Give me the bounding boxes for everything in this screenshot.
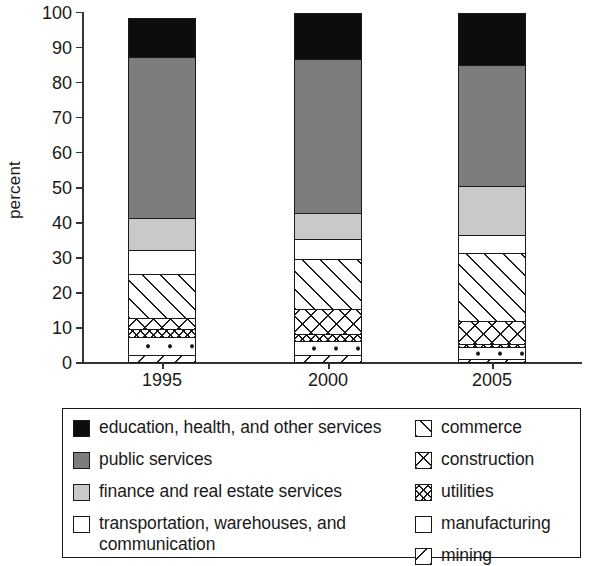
y-tick-label-60: 60 bbox=[32, 144, 72, 162]
bar-segment-commerce-2000 bbox=[295, 259, 361, 310]
bar-segment-construction-2005 bbox=[459, 321, 525, 344]
stacked-bar-chart: percent 0102030405060708090100 199520002… bbox=[0, 0, 595, 400]
bar-1995 bbox=[128, 18, 196, 363]
legend-label-manufacturing: manufacturing bbox=[441, 513, 551, 534]
y-tick-label-50: 50 bbox=[32, 179, 72, 197]
legend-item-education[interactable]: education, health, and other services bbox=[73, 417, 418, 444]
y-tick-label-90: 90 bbox=[32, 39, 72, 57]
bar-segment-education-2000 bbox=[295, 13, 361, 59]
legend-item-finance[interactable]: finance and real estate services bbox=[73, 481, 418, 508]
legend-label-transport-line2: communication bbox=[99, 534, 346, 555]
bar-segment-utilities-1995 bbox=[129, 329, 195, 338]
y-tick-label-30: 30 bbox=[32, 249, 72, 267]
y-tick-label-40: 40 bbox=[32, 214, 72, 232]
y-tick-label-100: 100 bbox=[32, 4, 72, 22]
bar-segment-manufacturing-2000 bbox=[295, 341, 361, 355]
bar-segment-public-services-1995 bbox=[129, 57, 195, 218]
legend-item-utilities[interactable]: utilities bbox=[415, 481, 575, 508]
y-axis-line bbox=[82, 12, 84, 363]
legend-label-utilities: utilities bbox=[441, 481, 494, 502]
y-tick-label-20: 20 bbox=[32, 284, 72, 302]
bar-segment-public-services-2005 bbox=[459, 65, 525, 186]
bar-segment-education-1995 bbox=[129, 18, 195, 57]
legend-swatch-transport bbox=[73, 516, 90, 533]
legend-label-construction: construction bbox=[441, 449, 534, 470]
legend-swatch-finance bbox=[73, 484, 90, 501]
bar-segment-construction-2000 bbox=[295, 309, 361, 334]
legend-item-manufacturing[interactable]: manufacturing bbox=[415, 513, 575, 540]
y-axis-tick-labels: 0102030405060708090100 bbox=[28, 0, 72, 380]
x-category-label-1995: 1995 bbox=[107, 370, 217, 391]
legend-swatch-public bbox=[73, 452, 90, 469]
legend-label-mining: mining bbox=[441, 545, 492, 566]
x-category-label-2000: 2000 bbox=[273, 370, 383, 391]
x-tick-mark-2000 bbox=[328, 362, 330, 369]
legend-swatch-mining bbox=[415, 548, 432, 565]
bar-segment-finance-2005 bbox=[459, 186, 525, 235]
legend-swatch-construction bbox=[415, 452, 432, 469]
legend-column-left: education, health, and other servicespub… bbox=[73, 417, 418, 559]
x-category-label-2005: 2005 bbox=[437, 370, 547, 391]
bar-segment-education-2005 bbox=[459, 13, 525, 66]
bar-segment-finance-1995 bbox=[129, 218, 195, 250]
y-axis-label: percent bbox=[2, 130, 28, 250]
x-tick-mark-2005 bbox=[492, 362, 494, 369]
legend-swatch-commerce bbox=[415, 420, 432, 437]
bar-segment-construction-1995 bbox=[129, 318, 195, 329]
legend-swatch-utilities bbox=[415, 484, 432, 501]
legend-item-public[interactable]: public services bbox=[73, 449, 418, 476]
bar-segment-finance-2000 bbox=[295, 213, 361, 239]
y-tick-label-70: 70 bbox=[32, 109, 72, 127]
legend: education, health, and other servicespub… bbox=[62, 408, 581, 558]
bar-segment-public-services-2000 bbox=[295, 59, 361, 213]
legend-item-commerce[interactable]: commerce bbox=[415, 417, 575, 444]
legend-swatch-education bbox=[73, 420, 90, 437]
bar-2000 bbox=[294, 13, 362, 363]
x-tick-mark-1995 bbox=[162, 362, 164, 369]
legend-item-construction[interactable]: construction bbox=[415, 449, 575, 476]
bar-segment-transport-1995 bbox=[129, 250, 195, 275]
legend-column-right: commerceconstructionutilitiesmanufacturi… bbox=[415, 417, 575, 566]
legend-item-mining[interactable]: mining bbox=[415, 545, 575, 566]
y-tick-label-10: 10 bbox=[32, 319, 72, 337]
legend-label-public: public services bbox=[99, 449, 212, 470]
legend-label-finance: finance and real estate services bbox=[99, 481, 342, 502]
legend-label-commerce: commerce bbox=[441, 417, 522, 438]
bar-segment-commerce-2005 bbox=[459, 253, 525, 321]
legend-label-education: education, health, and other services bbox=[99, 417, 381, 438]
legend-label-transport: transportation, warehouses, andcommunica… bbox=[99, 513, 346, 554]
bar-segment-manufacturing-1995 bbox=[129, 337, 195, 355]
legend-item-transport[interactable]: transportation, warehouses, andcommunica… bbox=[73, 513, 418, 554]
y-tick-label-0: 0 bbox=[32, 354, 72, 372]
bar-segment-manufacturing-2005 bbox=[459, 347, 525, 359]
bar-segment-transport-2005 bbox=[459, 235, 525, 253]
bar-2005 bbox=[458, 13, 526, 364]
bar-segment-utilities-2000 bbox=[295, 334, 361, 341]
bar-segment-transport-2000 bbox=[295, 239, 361, 258]
legend-swatch-manufacturing bbox=[415, 516, 432, 533]
bar-segment-commerce-1995 bbox=[129, 274, 195, 318]
y-tick-label-80: 80 bbox=[32, 74, 72, 92]
